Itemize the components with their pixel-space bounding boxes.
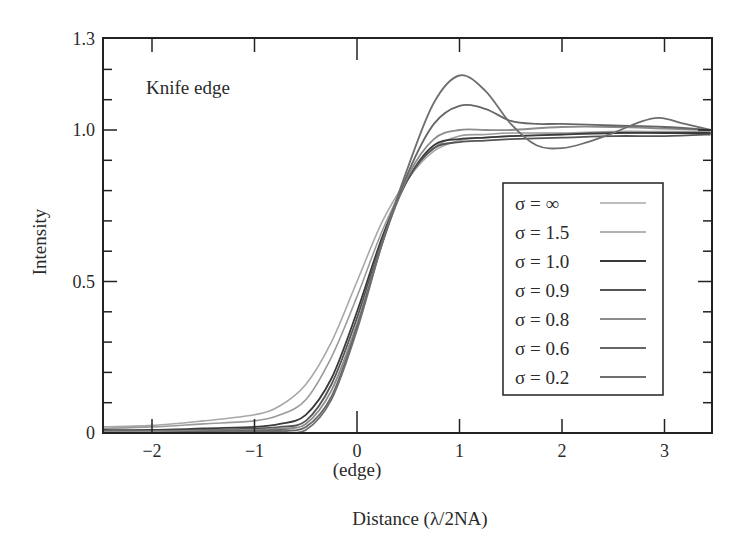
y-tick-label: 1.3 [73,29,96,49]
x-axis-title: Distance (λ/2NA) [352,508,487,530]
x-axis-sub-label: (edge) [333,459,382,481]
x-tick-label: 0 [353,441,362,461]
axis-labels: Knife edge (edge) Distance (λ/2NA) Inten… [29,77,488,530]
x-tick-label: −1 [245,441,264,461]
legend-label: σ = 0.8 [515,309,569,330]
annotation-knife-edge: Knife edge [146,77,230,98]
y-axis-title: Intensity [29,208,50,275]
legend-label: σ = 0.2 [515,367,569,388]
x-tick-label: 1 [455,441,464,461]
legend: σ = ∞σ = 1.5σ = 1.0σ = 0.9σ = 0.8σ = 0.6… [503,183,663,395]
y-tick-label: 0 [86,423,95,443]
legend-label: σ = 0.9 [515,280,569,301]
legend-label: σ = 0.6 [515,338,569,359]
legend-label: σ = 1.0 [515,251,569,272]
x-tick-label: 2 [558,441,567,461]
legend-label: σ = ∞ [515,193,559,214]
knife-edge-chart: 00.51.01.3−2−10123 Knife edge (edge) Dis… [0,0,744,551]
x-tick-label: 3 [660,441,669,461]
x-tick-label: −2 [142,441,161,461]
y-tick-label: 0.5 [73,272,96,292]
y-tick-label: 1.0 [73,120,96,140]
legend-label: σ = 1.5 [515,222,569,243]
